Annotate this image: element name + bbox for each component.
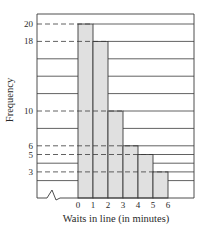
y-axis-label: Frequency [4, 77, 15, 122]
x-tick-label: 3 [121, 200, 126, 210]
x-tick-label: 4 [136, 200, 141, 210]
y-tick-labels: 201810653 [24, 19, 34, 177]
x-axis-label: Waits in line (in minutes) [63, 213, 170, 225]
x-tick-label: 2 [106, 200, 111, 210]
histogram-bar [138, 155, 153, 199]
histogram-bar [153, 172, 168, 198]
y-tick-label: 20 [24, 19, 34, 29]
x-tick-label: 5 [151, 200, 156, 210]
x-tick-labels: 0123456 [76, 200, 171, 210]
histogram-chart: 201810653 0123456 Waits in line (in minu… [0, 0, 206, 236]
y-tick-label: 5 [29, 150, 34, 160]
x-tick-label: 0 [76, 200, 81, 210]
y-tick-label: 18 [24, 36, 34, 46]
y-tick-label: 3 [29, 167, 34, 177]
x-tick-label: 6 [166, 200, 171, 210]
x-tick-label: 1 [91, 200, 96, 210]
histogram-bar [93, 41, 108, 198]
y-tick-label: 10 [24, 106, 34, 116]
